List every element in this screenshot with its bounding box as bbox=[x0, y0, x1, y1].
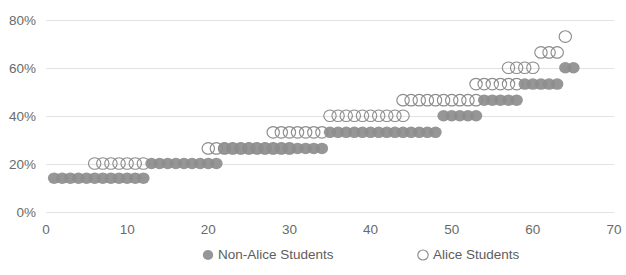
legend-open-circle-icon bbox=[418, 250, 428, 260]
data-point bbox=[397, 110, 409, 122]
legend-label[interactable]: Alice Students bbox=[433, 247, 520, 262]
data-point bbox=[510, 78, 522, 90]
x-tick-label: 70 bbox=[606, 222, 621, 237]
y-tick-label: 0% bbox=[16, 205, 36, 220]
data-point bbox=[283, 143, 295, 155]
x-tick-label: 0 bbox=[42, 222, 50, 237]
data-point bbox=[137, 158, 149, 170]
x-tick-label: 40 bbox=[363, 222, 378, 237]
data-point bbox=[527, 62, 539, 74]
data-point bbox=[559, 31, 571, 43]
scatter-chart: 0%20%40%60%80% 010203040506070 Non-Alice… bbox=[0, 0, 626, 275]
data-point bbox=[137, 172, 149, 184]
x-tick-label: 60 bbox=[525, 222, 540, 237]
data-point bbox=[316, 143, 328, 155]
data-point bbox=[210, 158, 222, 170]
y-tick-label: 20% bbox=[9, 157, 36, 172]
y-tick-label: 60% bbox=[9, 61, 36, 76]
data-point bbox=[470, 94, 482, 106]
data-point bbox=[551, 78, 563, 90]
chart-legend: Non-Alice StudentsAlice Students bbox=[203, 247, 520, 262]
x-tick-label: 10 bbox=[120, 222, 135, 237]
data-point bbox=[470, 110, 482, 122]
data-point bbox=[316, 127, 328, 139]
chart-container: 0%20%40%60%80% 010203040506070 Non-Alice… bbox=[0, 0, 626, 275]
x-tick-label: 20 bbox=[201, 222, 216, 237]
legend-filled-circle-icon bbox=[203, 250, 213, 260]
data-point bbox=[429, 127, 441, 139]
y-axis-tick-labels: 0%20%40%60%80% bbox=[9, 13, 36, 220]
y-tick-label: 40% bbox=[9, 109, 36, 124]
x-axis-tick-labels: 010203040506070 bbox=[42, 222, 621, 237]
data-point bbox=[551, 47, 563, 59]
x-tick-label: 50 bbox=[444, 222, 459, 237]
legend-label[interactable]: Non-Alice Students bbox=[218, 247, 334, 262]
y-tick-label: 80% bbox=[9, 13, 36, 28]
data-point bbox=[510, 94, 522, 106]
x-tick-label: 30 bbox=[282, 222, 297, 237]
data-point bbox=[567, 62, 579, 74]
